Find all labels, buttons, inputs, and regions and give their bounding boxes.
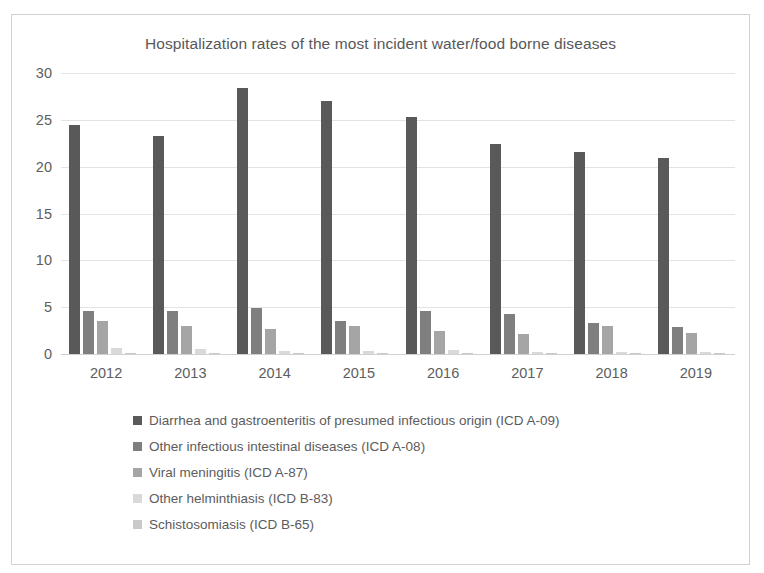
- y-axis-tick-label: 30: [36, 65, 52, 81]
- chart-container: Hospitalization rates of the most incide…: [11, 14, 750, 565]
- bar-group: 2012: [61, 73, 145, 354]
- legend-item-label: Diarrhea and gastroenteritis of presumed…: [149, 413, 559, 428]
- bar-group: 2016: [398, 73, 482, 354]
- bar-group: 2015: [314, 73, 398, 354]
- bar[interactable]: [293, 353, 304, 354]
- bar[interactable]: [265, 329, 276, 354]
- bar-group: 2018: [567, 73, 651, 354]
- bar[interactable]: [504, 314, 515, 354]
- legend-swatch-icon: [133, 416, 142, 425]
- bar[interactable]: [672, 327, 683, 354]
- bar[interactable]: [111, 348, 122, 354]
- figure-page: Hospitalization rates of the most incide…: [0, 0, 764, 573]
- bar[interactable]: [321, 101, 332, 354]
- gridline: 0: [61, 354, 735, 355]
- x-axis-tick-label: 2018: [567, 365, 651, 381]
- bar-group: 2019: [651, 73, 735, 354]
- page-bleed-text: [430, 0, 750, 11]
- x-axis-tick-label: 2015: [314, 365, 398, 381]
- bar[interactable]: [588, 323, 599, 354]
- x-axis-tick-label: 2014: [230, 365, 314, 381]
- chart-title: Hospitalization rates of the most incide…: [12, 35, 749, 53]
- legend-swatch-icon: [133, 520, 142, 529]
- bar[interactable]: [251, 308, 262, 354]
- bar-cluster: [61, 73, 145, 354]
- bar-group: 2017: [482, 73, 566, 354]
- bar-cluster: [145, 73, 229, 354]
- y-axis-tick-label: 0: [44, 346, 52, 362]
- bar[interactable]: [125, 353, 136, 354]
- bar[interactable]: [209, 353, 220, 354]
- bar[interactable]: [448, 350, 459, 354]
- bar-cluster: [230, 73, 314, 354]
- legend-item[interactable]: Schistosomiasis (ICD B-65): [12, 511, 749, 537]
- bar-cluster: [482, 73, 566, 354]
- x-axis-tick-label: 2019: [651, 365, 735, 381]
- legend-swatch-icon: [133, 442, 142, 451]
- bar[interactable]: [335, 321, 346, 354]
- x-axis-tick-label: 2013: [145, 365, 229, 381]
- bar[interactable]: [83, 311, 94, 354]
- x-axis-tick-label: 2012: [61, 365, 145, 381]
- bar-group: 2014: [230, 73, 314, 354]
- legend-item[interactable]: Diarrhea and gastroenteritis of presumed…: [12, 407, 749, 433]
- bar[interactable]: [616, 352, 627, 354]
- bar-cluster: [398, 73, 482, 354]
- bar[interactable]: [195, 349, 206, 354]
- legend-item[interactable]: Other helminthiasis (ICD B-83): [12, 485, 749, 511]
- legend-item-label: Other helminthiasis (ICD B-83): [149, 491, 333, 506]
- legend-item-label: Viral meningitis (ICD A-87): [149, 465, 308, 480]
- bar[interactable]: [658, 158, 669, 354]
- bar[interactable]: [97, 321, 108, 354]
- bar[interactable]: [714, 353, 725, 354]
- y-axis-tick-label: 20: [36, 159, 52, 175]
- legend-item[interactable]: Viral meningitis (ICD A-87): [12, 459, 749, 485]
- bar[interactable]: [69, 125, 80, 354]
- legend-item[interactable]: Other infectious intestinal diseases (IC…: [12, 433, 749, 459]
- legend-swatch-icon: [133, 468, 142, 477]
- bar-groups: 20122013201420152016201720182019: [61, 73, 735, 354]
- bar[interactable]: [490, 144, 501, 354]
- bar[interactable]: [686, 333, 697, 354]
- bar[interactable]: [153, 136, 164, 354]
- bar[interactable]: [574, 152, 585, 354]
- y-axis-tick-label: 15: [36, 206, 52, 222]
- x-axis-tick-label: 2016: [398, 365, 482, 381]
- bar[interactable]: [279, 351, 290, 354]
- bar[interactable]: [167, 311, 178, 354]
- bar[interactable]: [181, 326, 192, 354]
- bar[interactable]: [377, 353, 388, 354]
- bar[interactable]: [434, 331, 445, 354]
- bar[interactable]: [532, 352, 543, 354]
- bar[interactable]: [363, 351, 374, 354]
- chart-legend: Diarrhea and gastroenteritis of presumed…: [12, 407, 749, 537]
- plot-area: 051015202530 201220132014201520162017201…: [61, 73, 735, 354]
- bar[interactable]: [420, 311, 431, 354]
- y-axis-tick-label: 5: [44, 299, 52, 315]
- bar[interactable]: [237, 88, 248, 354]
- bar[interactable]: [546, 353, 557, 354]
- bar-cluster: [314, 73, 398, 354]
- bar[interactable]: [462, 353, 473, 354]
- bar[interactable]: [700, 352, 711, 354]
- bar-cluster: [651, 73, 735, 354]
- bar[interactable]: [630, 353, 641, 354]
- bar[interactable]: [406, 117, 417, 354]
- y-axis-tick-label: 25: [36, 112, 52, 128]
- legend-item-label: Schistosomiasis (ICD B-65): [149, 517, 314, 532]
- legend-swatch-icon: [133, 494, 142, 503]
- bar[interactable]: [602, 326, 613, 354]
- bar[interactable]: [518, 334, 529, 354]
- bar-cluster: [567, 73, 651, 354]
- legend-item-label: Other infectious intestinal diseases (IC…: [149, 439, 425, 454]
- y-axis-tick-label: 10: [36, 252, 52, 268]
- x-axis-tick-label: 2017: [482, 365, 566, 381]
- bar-group: 2013: [145, 73, 229, 354]
- bar[interactable]: [349, 326, 360, 354]
